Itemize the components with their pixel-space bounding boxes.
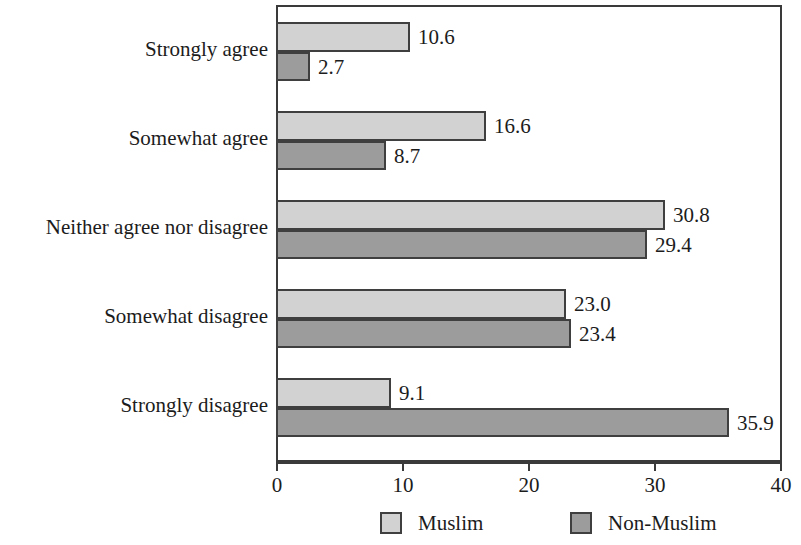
bar-muslim-somewhat-disagree	[276, 289, 566, 319]
x-tick-label-10: 10	[393, 474, 414, 496]
legend-entry-muslim: Muslim	[380, 508, 483, 538]
value-label-muslim-neither: 30.8	[673, 205, 710, 226]
bar-muslim-strongly-agree	[276, 22, 410, 52]
bar-nonmuslim-somewhat-disagree	[276, 319, 571, 348]
bar-muslim-somewhat-agree	[276, 111, 486, 141]
chart-legend: Muslim Non-Muslim	[0, 508, 801, 542]
bar-muslim-neither	[276, 200, 665, 230]
value-label-nonmuslim-somewhat-agree: 8.7	[394, 146, 420, 167]
x-tick-label-0: 0	[272, 474, 283, 496]
value-label-nonmuslim-strongly-agree: 2.7	[318, 57, 344, 78]
x-tick-0	[276, 462, 278, 471]
bar-nonmuslim-strongly-agree	[276, 52, 310, 81]
bars-layer: 10.6 2.7 16.6 8.7 30.8 29.4 23.0 23.4 9.…	[276, 5, 782, 462]
category-label-neither: Neither agree nor disagree	[0, 216, 268, 238]
category-label-strongly-agree: Strongly agree	[0, 38, 268, 60]
x-tick-label-30: 30	[645, 474, 666, 496]
bar-nonmuslim-somewhat-agree	[276, 141, 386, 170]
value-label-muslim-somewhat-disagree: 23.0	[574, 294, 611, 315]
x-tick-10	[402, 462, 404, 471]
category-label-somewhat-agree: Somewhat agree	[0, 127, 268, 149]
dark-gray-swatch-icon	[570, 512, 592, 534]
value-label-muslim-strongly-agree: 10.6	[418, 27, 455, 48]
x-tick-40	[780, 462, 782, 471]
x-tick-label-40: 40	[771, 474, 792, 496]
x-tick-30	[654, 462, 656, 471]
value-label-muslim-somewhat-agree: 16.6	[494, 116, 531, 137]
value-label-nonmuslim-neither: 29.4	[655, 235, 692, 256]
light-gray-swatch-icon	[380, 512, 402, 534]
bar-muslim-strongly-disagree	[276, 378, 391, 408]
legend-entry-non-muslim: Non-Muslim	[570, 508, 717, 538]
category-axis-labels: Strongly agree Somewhat agree Neither ag…	[0, 5, 268, 462]
category-label-somewhat-disagree: Somewhat disagree	[0, 305, 268, 327]
value-label-muslim-strongly-disagree: 9.1	[399, 383, 425, 404]
x-axis: 0 10 20 30 40	[276, 462, 782, 464]
x-tick-label-20: 20	[519, 474, 540, 496]
legend-label-non-muslim: Non-Muslim	[608, 512, 717, 534]
bar-nonmuslim-strongly-disagree	[276, 408, 729, 437]
category-label-strongly-disagree: Strongly disagree	[0, 394, 268, 416]
x-tick-20	[528, 462, 530, 471]
bar-chart-figure: Strongly agree Somewhat agree Neither ag…	[0, 0, 801, 545]
legend-label-muslim: Muslim	[418, 512, 483, 534]
value-label-nonmuslim-strongly-disagree: 35.9	[737, 413, 774, 434]
value-label-nonmuslim-somewhat-disagree: 23.4	[579, 324, 616, 345]
bar-nonmuslim-neither	[276, 230, 647, 259]
